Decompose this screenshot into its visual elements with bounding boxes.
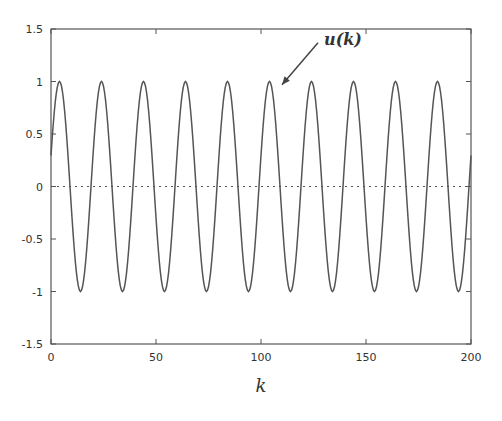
x-tick-label: 0 — [48, 351, 55, 364]
x-axis-tick-labels: 050100150200 — [48, 351, 482, 364]
y-tick-label: -1 — [32, 286, 43, 299]
x-tick-label: 150 — [356, 351, 377, 364]
chart: 1.510.50-0.5-1-1.5 050100150200 u(k) k — [0, 0, 502, 421]
x-tick-label: 50 — [149, 351, 163, 364]
y-tick-label: 1.5 — [26, 23, 44, 36]
y-tick-label: 1 — [36, 76, 43, 89]
y-tick-label: 0 — [36, 181, 43, 194]
x-tick-label: 100 — [251, 351, 272, 364]
x-tick-label: 200 — [461, 351, 482, 364]
y-tick-label: 0.5 — [26, 128, 44, 141]
y-tick-label: -0.5 — [22, 233, 43, 246]
annotation-u-k: u(k) — [282, 30, 362, 85]
y-tick-label: -1.5 — [22, 338, 43, 351]
y-axis-tick-labels: 1.510.50-0.5-1-1.5 — [22, 23, 43, 351]
annotation-label: u(k) — [324, 30, 362, 49]
annotation-arrow — [282, 43, 318, 85]
x-axis-label: k — [256, 375, 267, 396]
